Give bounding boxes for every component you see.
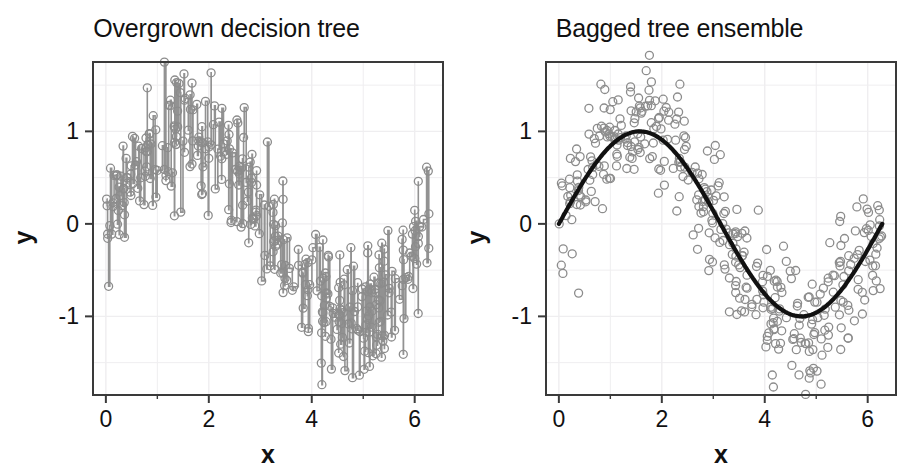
data-point <box>676 80 684 88</box>
data-point <box>725 308 733 316</box>
data-point <box>768 371 776 379</box>
data-point <box>782 257 790 265</box>
data-point <box>568 216 576 224</box>
data-point <box>665 108 673 116</box>
y-tick-label: 1 <box>519 118 532 144</box>
y-tick-label: -1 <box>59 303 79 329</box>
data-point <box>795 371 803 379</box>
plot-area-left: 024610-1xy <box>0 0 453 470</box>
y-tick-label: 0 <box>66 211 79 237</box>
y-tick-label: 1 <box>66 118 79 144</box>
data-point <box>566 175 574 183</box>
data-point <box>711 234 719 242</box>
panel-overgrown-decision-tree: Overgrown decision tree 024610-1xy <box>0 0 453 470</box>
figure-container: Overgrown decision tree 024610-1xy Bagge… <box>0 0 906 470</box>
data-point <box>859 195 867 203</box>
data-point <box>733 205 741 213</box>
data-point <box>585 104 593 112</box>
x-axis-title: x <box>261 440 275 468</box>
data-point <box>743 234 751 242</box>
data-point <box>818 351 826 359</box>
plot-area-right: 024610-1xy <box>453 0 906 470</box>
data-point <box>675 193 683 201</box>
data-point <box>837 346 845 354</box>
data-point <box>642 67 650 75</box>
data-point <box>808 280 816 288</box>
data-point <box>769 383 777 391</box>
data-point <box>568 250 576 258</box>
data-point <box>576 153 584 161</box>
data-point <box>817 380 825 388</box>
data-point <box>792 346 800 354</box>
x-tick-label: 0 <box>99 406 112 432</box>
x-axis-title: x <box>714 440 728 468</box>
data-point <box>736 294 744 302</box>
data-point <box>680 117 688 125</box>
data-point <box>853 203 861 211</box>
data-point <box>613 162 621 170</box>
data-point <box>645 51 653 59</box>
data-point <box>599 205 607 213</box>
x-tick-label: 2 <box>655 406 668 432</box>
data-point <box>635 94 643 102</box>
x-tick-label: 2 <box>202 406 215 432</box>
x-tick-label: 4 <box>305 406 318 432</box>
data-point <box>854 276 862 284</box>
data-point <box>575 289 583 297</box>
data-point <box>587 187 595 195</box>
data-point <box>674 93 682 101</box>
x-tick-label: 4 <box>758 406 771 432</box>
data-point <box>844 334 852 342</box>
x-tick-label: 6 <box>408 406 421 432</box>
data-point <box>754 206 762 214</box>
data-point <box>682 134 690 142</box>
data-point <box>721 207 729 215</box>
data-point <box>835 311 843 319</box>
data-point <box>659 95 667 103</box>
data-point <box>845 306 853 314</box>
data-point <box>778 327 786 335</box>
data-point <box>752 311 760 319</box>
data-point <box>694 245 702 253</box>
y-axis-title: y <box>9 230 37 244</box>
data-point <box>648 153 656 161</box>
data-point <box>672 136 680 144</box>
data-point <box>703 147 711 155</box>
data-point <box>716 151 724 159</box>
data-point <box>826 239 834 247</box>
data-point <box>831 303 839 311</box>
data-point <box>600 162 608 170</box>
data-point <box>614 96 622 104</box>
data-point <box>837 212 845 220</box>
data-point <box>646 155 654 163</box>
y-tick-label: -1 <box>512 303 532 329</box>
panel-bagged-tree-ensemble: Bagged tree ensemble 024610-1xy <box>453 0 906 470</box>
data-point <box>649 139 657 147</box>
data-point <box>591 198 599 206</box>
data-point <box>841 235 849 243</box>
data-point <box>559 245 567 253</box>
data-point <box>566 184 574 192</box>
data-point <box>720 193 728 201</box>
data-point <box>711 142 719 150</box>
x-tick-label: 6 <box>861 406 874 432</box>
x-tick-label: 0 <box>552 406 565 432</box>
data-point <box>837 324 845 332</box>
data-point <box>700 208 708 216</box>
data-point <box>778 289 786 297</box>
data-point <box>824 343 832 351</box>
data-point <box>850 317 858 325</box>
data-point <box>671 120 679 128</box>
data-point <box>645 86 653 94</box>
y-axis-title: y <box>462 230 490 244</box>
data-point <box>780 242 788 250</box>
y-tick-label: 0 <box>519 211 532 237</box>
data-point <box>627 83 635 91</box>
data-point <box>763 246 771 254</box>
data-point <box>673 207 681 215</box>
data-point <box>573 145 581 153</box>
data-point <box>787 275 795 283</box>
data-point <box>851 227 859 235</box>
data-point <box>695 224 703 232</box>
